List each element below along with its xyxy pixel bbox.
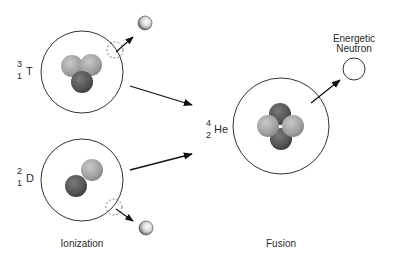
neutron-emission-arrow [311,80,340,103]
energetic-neutron [343,58,365,80]
fusion-caption: Fusion [266,238,296,249]
deuterium-electron-arrow [116,209,133,221]
deuterium-proton [81,159,103,181]
helium-proton-left [257,115,279,137]
deuterium-neutron [65,175,87,197]
helium-proton-right [282,115,304,137]
neutron-label-line2: Neutron [336,43,372,54]
tritium-electron-vacancy [107,42,123,58]
deuterium-electron-vacancy [106,199,122,215]
tritium-symbol: T [26,65,33,77]
helium-orbit [233,78,329,174]
tritium-electron-arrow [116,37,133,52]
helium-mass-number: 4 [206,118,211,128]
deuterium-atomic-number: 1 [17,178,22,188]
deuterium-electron [139,221,153,235]
deuterium-to-helium-arrow [130,154,192,170]
deuterium-mass-number: 2 [17,166,22,176]
helium-symbol: He [214,123,228,135]
tritium-electron [138,16,152,30]
ionization-caption: Ionization [61,238,104,249]
tritium-atomic-number: 1 [17,71,22,81]
tritium-neutron-2 [71,71,93,93]
deuterium-symbol: D [26,172,34,184]
deuterium-atom [41,139,153,235]
helium-atomic-number: 2 [206,130,211,140]
tritium-mass-number: 3 [17,59,22,69]
helium-atom [233,78,329,174]
tritium-atom [41,16,152,113]
fusion-diagram: 3 1 T 2 1 D 4 2 He Energetic Neutron Ion… [0,0,397,261]
tritium-to-helium-arrow [130,86,192,105]
